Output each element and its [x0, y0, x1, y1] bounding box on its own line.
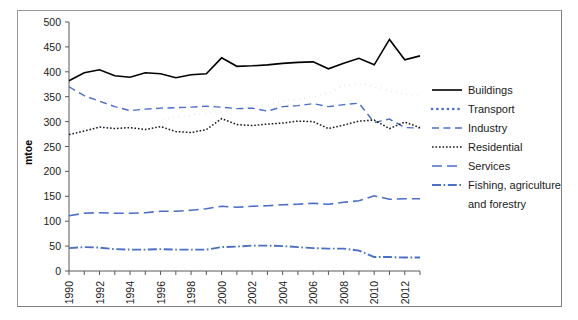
legend-label-buildings[interactable]: Buildings	[468, 84, 513, 96]
series-line-services	[69, 196, 420, 216]
y-tick-label: 400	[43, 66, 61, 78]
legend-label-transport[interactable]: Transport	[468, 103, 515, 115]
x-tick-label: 2000	[216, 281, 228, 305]
line-chart-plot: 0501001502002503003504004505001990199219…	[0, 0, 578, 320]
series-line-industry	[69, 87, 420, 128]
series-line-buildings	[69, 39, 420, 80]
x-tick-label: 2004	[277, 281, 289, 305]
y-tick-label: 300	[43, 116, 61, 128]
legend-label-residential[interactable]: Residential	[468, 141, 522, 153]
y-tick-label: 0	[55, 265, 61, 277]
x-tick-label: 1992	[94, 281, 106, 305]
y-tick-label: 100	[43, 215, 61, 227]
legend-label-fishing-line2: and forestry	[468, 198, 527, 210]
legend-label-services[interactable]: Services	[468, 160, 511, 172]
y-tick-label: 350	[43, 91, 61, 103]
y-tick-label: 50	[49, 240, 61, 252]
x-tick-label: 1994	[124, 281, 136, 305]
x-tick-label: 2008	[338, 281, 350, 305]
x-tick-label: 1990	[63, 281, 75, 305]
x-tick-label: 1998	[185, 281, 197, 305]
legend-label-fishing[interactable]: Fishing, agriculture	[468, 179, 561, 191]
y-tick-label: 250	[43, 141, 61, 153]
series-line-transport	[69, 84, 420, 131]
x-tick-label: 2006	[307, 281, 319, 305]
x-tick-label: 2002	[246, 281, 258, 305]
chart-figure: 0501001502002503003504004505001990199219…	[0, 0, 578, 320]
legend-label-industry[interactable]: Industry	[468, 122, 508, 134]
y-tick-label: 150	[43, 190, 61, 202]
x-tick-label: 2010	[368, 281, 380, 305]
y-tick-label: 200	[43, 165, 61, 177]
y-tick-label: 450	[43, 41, 61, 53]
series-line-fishing	[69, 246, 420, 258]
x-tick-label: 1996	[155, 281, 167, 305]
y-tick-label: 500	[43, 16, 61, 28]
y-axis-title: mtoe	[22, 140, 34, 165]
x-tick-label: 2012	[399, 281, 411, 305]
